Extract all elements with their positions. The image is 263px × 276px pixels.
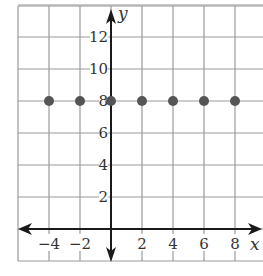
y-tick-label: 12 [89, 28, 108, 46]
y-tick-label: 2 [98, 188, 108, 206]
y-axis-label: y [117, 3, 128, 23]
y-tick-label: 4 [98, 156, 108, 174]
axes [18, 9, 262, 262]
data-point [44, 96, 54, 106]
x-axis-label: x [250, 234, 260, 254]
x-tick-label: −4 [38, 235, 60, 253]
data-point [75, 96, 85, 106]
y-tick-label: 10 [89, 60, 108, 78]
x-tick-label: −2 [69, 235, 91, 253]
y-tick-labels: 24681012 [89, 28, 108, 206]
data-point [230, 96, 240, 106]
x-tick-label: 4 [168, 235, 178, 253]
data-point [137, 96, 147, 106]
x-tick-label: 6 [199, 235, 209, 253]
data-point [106, 96, 116, 106]
data-point [199, 96, 209, 106]
coordinate-plane: −4−22468 24681012 x y [0, 0, 263, 276]
x-tick-label: 8 [230, 235, 240, 253]
grid-lines [18, 5, 263, 261]
y-tick-label: 6 [98, 124, 108, 142]
x-tick-label: 2 [137, 235, 147, 253]
data-point [168, 96, 178, 106]
x-tick-labels: −4−22468 [38, 234, 244, 253]
